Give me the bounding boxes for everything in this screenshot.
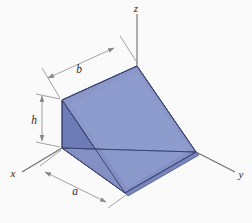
y-axis-line [196, 152, 235, 172]
h-ext-top [36, 94, 60, 99]
figure-container: z y x b h a [0, 0, 252, 223]
b-ext-right [120, 36, 138, 64]
wedge-solid [62, 66, 199, 196]
wedge-diagram-svg: z y x b h a [0, 0, 252, 223]
z-axis-label: z [133, 2, 139, 14]
h-ext-bottom [36, 142, 60, 147]
y-axis-label: y [238, 168, 244, 180]
dimension-label-h: h [31, 114, 37, 126]
dimension-label-b: b [76, 63, 82, 75]
a-ext-right [108, 195, 126, 208]
a-ext-left [40, 150, 61, 166]
b-ext-left [42, 68, 60, 98]
dimension-label-a: a [72, 185, 78, 197]
x-axis-label: x [10, 167, 16, 179]
x-axis-line [22, 148, 62, 172]
